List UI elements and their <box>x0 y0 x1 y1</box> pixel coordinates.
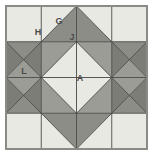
patch-label-H: H <box>35 27 42 37</box>
patch-label-L: L <box>21 66 27 76</box>
patch-corner-square-bottom-left <box>6 113 41 149</box>
patch-corner-square-bottom-right <box>112 113 147 149</box>
quilt-block-diagram: H G J L A <box>0 0 153 156</box>
quilt-block-figure: H G J L A <box>0 0 153 156</box>
patch-label-J: J <box>69 32 74 42</box>
patch-label-G: G <box>55 16 62 26</box>
patch-corner-square-top-right <box>112 6 147 42</box>
patch-label-A: A <box>77 73 84 83</box>
